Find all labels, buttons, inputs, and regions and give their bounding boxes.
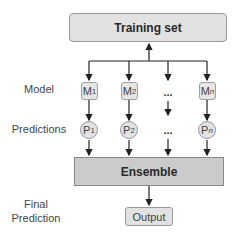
prediction-1-label: P xyxy=(83,124,90,136)
output-label: Output xyxy=(132,211,165,223)
ensemble-label: Ensemble xyxy=(121,165,178,179)
model-n-label: M xyxy=(201,85,210,97)
predictions-row-label: Predictions xyxy=(6,123,72,135)
output-box: Output xyxy=(125,207,173,226)
model-box-2: M2 xyxy=(121,82,138,100)
ensemble-box: Ensemble xyxy=(74,157,224,186)
model-2-sub: 2 xyxy=(132,87,136,96)
final-label-line1: Final xyxy=(6,198,66,210)
prediction-n-sub: n xyxy=(208,126,212,135)
final-label-line2: Prediction xyxy=(6,212,66,224)
prediction-ellipsis: ... xyxy=(158,122,178,138)
prediction-circle-1: P1 xyxy=(80,121,98,139)
prediction-1-sub: 1 xyxy=(90,126,94,135)
model-box-1: M1 xyxy=(81,82,98,100)
model-ellipsis: ... xyxy=(158,84,178,100)
model-box-n: Mn xyxy=(199,82,216,100)
prediction-2-label: P xyxy=(123,124,130,136)
model-1-label: M xyxy=(83,85,92,97)
model-row-label: Model xyxy=(16,83,62,95)
model-1-sub: 1 xyxy=(92,87,96,96)
model-ellipsis-text: ... xyxy=(163,86,172,98)
prediction-n-label: P xyxy=(201,124,208,136)
prediction-2-sub: 2 xyxy=(130,126,134,135)
prediction-ellipsis-text: ... xyxy=(163,124,172,136)
prediction-circle-n: Pn xyxy=(198,121,216,139)
model-2-label: M xyxy=(123,85,132,97)
training-set-box: Training set xyxy=(69,13,227,42)
prediction-circle-2: P2 xyxy=(120,121,138,139)
training-set-label: Training set xyxy=(114,21,181,35)
model-n-sub: n xyxy=(210,87,214,96)
